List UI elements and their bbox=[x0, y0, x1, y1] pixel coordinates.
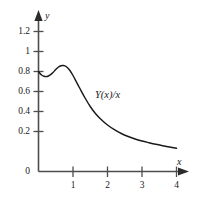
y-tick-label-0-6: 0.6 bbox=[2, 87, 30, 97]
chart-figure: 1.2 1 0.8 0.6 0.4 0.2 0 1 2 3 4 y x Y(x)… bbox=[0, 0, 199, 199]
y-tick-label-0-8: 0.8 bbox=[2, 67, 30, 77]
y-axis-label: y bbox=[45, 11, 49, 21]
y-tick-label-0-4: 0.4 bbox=[2, 107, 30, 117]
x-axis-arrow-icon bbox=[178, 167, 189, 175]
y-tick-label-0-2: 0.2 bbox=[2, 127, 30, 137]
x-tick-label-2: 2 bbox=[98, 181, 118, 191]
data-curve-y-over-x bbox=[39, 65, 177, 148]
y-tick-label-1: 1 bbox=[2, 47, 30, 57]
x-tick-label-3: 3 bbox=[132, 181, 152, 191]
y-tick-label-1-2: 1.2 bbox=[2, 27, 30, 37]
x-axis-label: x bbox=[177, 157, 181, 167]
y-tick-label-0: 0 bbox=[2, 167, 30, 177]
x-tick-label-1: 1 bbox=[63, 181, 83, 191]
curve-annotation-label: Y(x)/x bbox=[95, 90, 120, 101]
x-tick-label-4: 4 bbox=[167, 181, 187, 191]
y-axis-arrow-icon bbox=[34, 10, 42, 21]
